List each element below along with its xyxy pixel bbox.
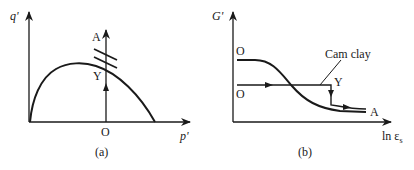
point-y-label: Y (93, 69, 102, 83)
panel-b: G' O O Cam clay Y A ln εs (b) (212, 9, 403, 159)
strain-axis-text: ln ε (382, 129, 399, 143)
point-a-label: A (92, 30, 101, 44)
caption-a: (a) (95, 145, 108, 159)
point-o-label: O (101, 125, 110, 139)
p-axis-label: p' (179, 129, 189, 143)
g-axis-label: G' (212, 9, 224, 23)
drop-arrow (328, 90, 334, 97)
q-axis-label: q' (10, 9, 19, 23)
point-y-label-b: Y (334, 75, 343, 89)
tail-arrow (343, 104, 351, 110)
caption-b: (b) (298, 145, 312, 159)
diagram-canvas: q' p' A Y O (a) G' O O Cam clay Y A ln ε… (0, 0, 414, 170)
strain-axis-label: ln εs (382, 129, 403, 145)
cam-clay-annotation: Cam clay (325, 47, 371, 61)
point-a-label-b: A (370, 105, 379, 119)
horizontal-arrow (265, 82, 273, 88)
stiffness-degradation-curve (237, 60, 366, 112)
origin-bottom-label: O (236, 87, 245, 101)
strain-axis-subscript: s (399, 136, 402, 145)
panel-a: q' p' A Y O (a) (10, 9, 190, 159)
path-direction-arrow (103, 83, 109, 91)
cam-clay-path (237, 85, 366, 109)
origin-top-label: O (236, 44, 245, 58)
